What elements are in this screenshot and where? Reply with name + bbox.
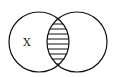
set-right-circle [47,12,107,72]
venn-diagram: X [0,0,114,77]
set-left-circle [9,12,69,72]
set-left-label: X [23,36,31,49]
intersection-hatching [40,19,80,64]
